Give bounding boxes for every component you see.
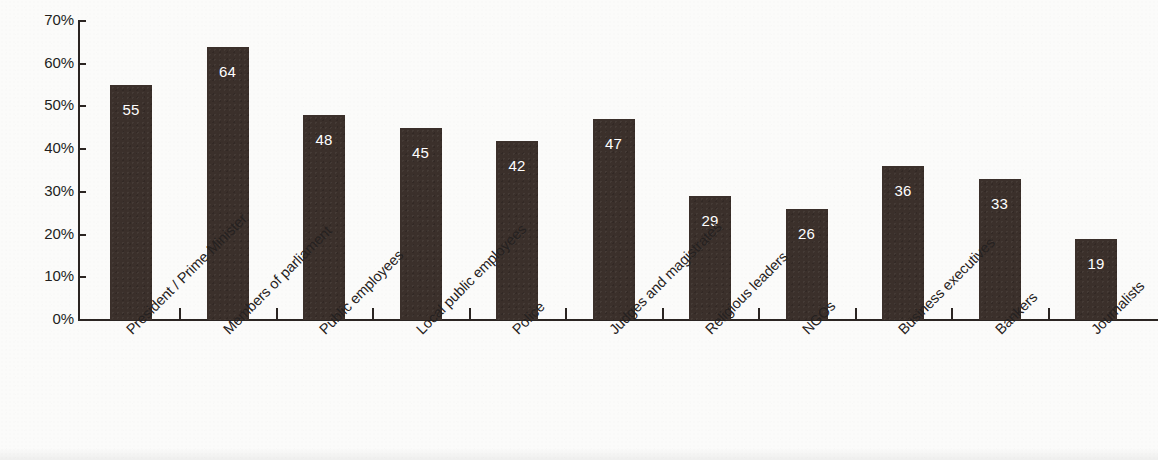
y-axis-tick bbox=[78, 191, 86, 193]
y-axis-tick bbox=[78, 148, 86, 150]
bar-value-label: 36 bbox=[882, 182, 924, 199]
bar-value-label: 45 bbox=[400, 144, 442, 161]
bar-value-label: 48 bbox=[303, 131, 345, 148]
x-axis-tick bbox=[179, 308, 181, 320]
bar: 64 bbox=[207, 47, 249, 320]
y-axis-tick-label: 20% bbox=[14, 225, 74, 242]
bar: 55 bbox=[110, 85, 152, 320]
y-axis-tick-label: 30% bbox=[14, 182, 74, 199]
scan-edge-shadow bbox=[0, 448, 1158, 460]
y-axis-tick-label: 50% bbox=[14, 96, 74, 113]
y-axis-tick bbox=[78, 63, 86, 65]
bar: 45 bbox=[400, 128, 442, 320]
bar: 36 bbox=[882, 166, 924, 320]
bar: 48 bbox=[303, 115, 345, 320]
y-axis-tick-label: 0% bbox=[14, 310, 74, 327]
y-axis-tick bbox=[78, 276, 86, 278]
x-axis-tick bbox=[1048, 308, 1050, 320]
x-axis-tick bbox=[951, 308, 953, 320]
y-axis-tick-label: 70% bbox=[14, 11, 74, 28]
y-axis-tick-label: 10% bbox=[14, 267, 74, 284]
bar: 47 bbox=[593, 119, 635, 320]
bar-value-label: 55 bbox=[110, 101, 152, 118]
x-axis-tick bbox=[565, 308, 567, 320]
bar-chart: 70%60%50%40%30%20%10%0% 5564484542472926… bbox=[0, 0, 1158, 460]
y-axis-tick-label: 60% bbox=[14, 54, 74, 71]
bar-value-label: 47 bbox=[593, 135, 635, 152]
x-axis-tick bbox=[758, 308, 760, 320]
bar-value-label: 19 bbox=[1075, 255, 1117, 272]
x-axis-tick bbox=[469, 308, 471, 320]
y-axis-cap-top bbox=[78, 20, 86, 22]
x-axis-tick bbox=[276, 308, 278, 320]
x-axis-tick bbox=[662, 308, 664, 320]
bar-value-label: 26 bbox=[786, 225, 828, 242]
y-axis-tick-label: 40% bbox=[14, 139, 74, 156]
x-axis-tick bbox=[372, 308, 374, 320]
y-axis-tick bbox=[78, 234, 86, 236]
y-axis-tick bbox=[78, 105, 86, 107]
bar-value-label: 64 bbox=[207, 63, 249, 80]
x-axis-tick bbox=[855, 308, 857, 320]
bar-value-label: 42 bbox=[496, 157, 538, 174]
bar-value-label: 33 bbox=[979, 195, 1021, 212]
